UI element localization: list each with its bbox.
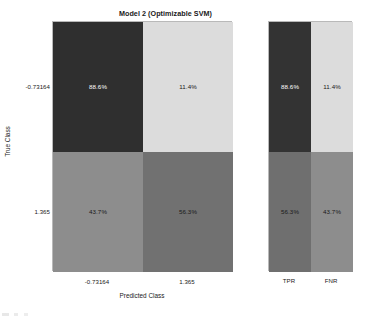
y-axis-ticks: -0.73164 1.365 [0,0,50,317]
x-tick-1: 1.365 [162,278,212,285]
scan-artifact [2,313,42,316]
summary-cell-0-1[interactable]: 11.4% [311,22,353,152]
summary-cell-1-1[interactable]: 43.7% [311,152,353,272]
summary-tick-fnr: FNR [306,277,356,284]
summary-cell-0-0[interactable]: 88.6% [269,22,311,152]
summary-panel-grid: 88.6% 11.4% 56.3% 43.7% [268,21,352,271]
matrix-cell-0-0[interactable]: 88.6% [53,22,143,152]
confusion-matrix-grid: 88.6% 11.4% 43.7% 56.3% [52,21,232,271]
chart-title: Model 2 (Optimizable SVM) [0,9,371,18]
y-tick-1: 1.365 [4,208,50,215]
x-axis-label: Predicted Class [52,292,232,299]
matrix-cell-1-1[interactable]: 56.3% [143,152,233,272]
summary-cell-1-0[interactable]: 56.3% [269,152,311,272]
y-tick-0: -0.73164 [4,83,50,90]
x-tick-0: -0.73164 [72,278,122,285]
matrix-cell-0-1[interactable]: 11.4% [143,22,233,152]
chart-title-text: Model 2 (Optimizable SVM) [119,9,212,18]
confusion-matrix-chart: Model 2 (Optimizable SVM) True Class -0.… [0,0,371,317]
matrix-cell-1-0[interactable]: 43.7% [53,152,143,272]
